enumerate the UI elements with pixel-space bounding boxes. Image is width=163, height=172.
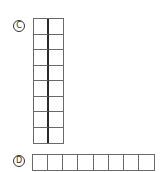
grid-cell [49, 19, 64, 35]
grid-cell [49, 66, 64, 82]
grid-cell [34, 50, 49, 66]
grid-cell [49, 112, 64, 128]
option-c-label: C [13, 20, 25, 32]
grid-cell [34, 97, 49, 113]
grid-cell [34, 66, 49, 82]
grid-cell [34, 128, 49, 144]
strip-cell [139, 155, 154, 170]
grid-cell [49, 81, 64, 97]
strip-cell [63, 155, 78, 170]
grid-cell [49, 128, 64, 144]
grid-cell [49, 97, 64, 113]
grid-cell [34, 112, 49, 128]
strip-cell [48, 155, 63, 170]
strip-cell [78, 155, 93, 170]
vertical-grid-c [33, 18, 64, 144]
grid-cell [49, 50, 64, 66]
strip-cell [124, 155, 139, 170]
grid-cell [34, 19, 49, 35]
option-d-letter: D [16, 157, 22, 165]
strip-cell [109, 155, 124, 170]
grid-cell [34, 35, 49, 51]
strip-cell [94, 155, 109, 170]
option-c-letter: C [16, 22, 22, 30]
option-d-label: D [13, 155, 25, 167]
strip-cell [33, 155, 48, 170]
horizontal-strip-d [32, 154, 155, 171]
grid-cell [49, 35, 64, 51]
grid-cell [34, 81, 49, 97]
